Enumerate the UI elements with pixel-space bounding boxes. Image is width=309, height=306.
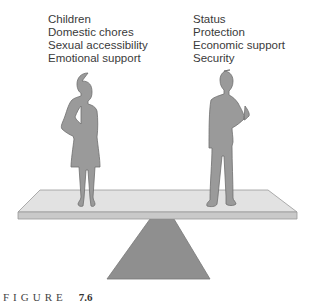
man-silhouette xyxy=(207,70,250,207)
plank-edge xyxy=(18,212,297,219)
fulcrum-triangle xyxy=(107,219,210,279)
plank-top xyxy=(18,190,297,212)
caption-word: FIGURE xyxy=(3,291,67,303)
figure-caption: FIGURE7.6 xyxy=(3,291,92,303)
caption-number: 7.6 xyxy=(79,291,93,303)
balance-scene xyxy=(0,0,309,306)
woman-silhouette xyxy=(61,73,100,206)
